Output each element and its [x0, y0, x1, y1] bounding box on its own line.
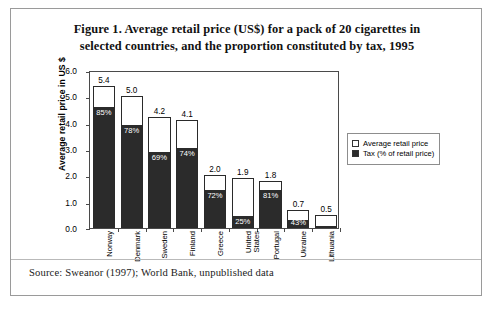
y-axis-tick-label: 2.0: [51, 171, 77, 181]
y-axis-tick-mark: [86, 177, 90, 178]
bar-group: 0.743%: [287, 210, 309, 228]
legend-item-label: Tax (% of retail price): [363, 149, 434, 158]
legend-item: Tax (% of retail price): [352, 149, 434, 158]
source-note: Source: Sweanor (1997); World Bank, unpu…: [29, 267, 274, 278]
bar-group: 1.881%: [259, 181, 281, 228]
x-axis-tick-mark: [229, 228, 230, 232]
x-axis-tick-mark: [146, 228, 147, 232]
figure-title: Figure 1. Average retail price (US$) for…: [37, 21, 457, 55]
x-axis-category-label: Greece: [217, 231, 225, 293]
bar-segment-tax: [177, 148, 197, 227]
chart-legend: Average retail priceTax (% of retail pri…: [347, 133, 440, 165]
bar-value-label: 0.5: [315, 205, 337, 214]
x-axis-category-label: Denmark: [134, 231, 142, 293]
x-axis-category-label: United States: [245, 231, 262, 293]
bar-segment-tax: [94, 107, 114, 227]
bar-group: 1.925%: [232, 178, 254, 228]
bar-tax-percent-label: 74%: [176, 149, 198, 158]
y-axis-tick-mark: [86, 204, 90, 205]
bar-value-label: 1.8: [259, 171, 281, 180]
y-axis-tick-labels: 0.01.02.03.04.05.06.0: [51, 71, 77, 229]
bar-value-label: 4.1: [176, 110, 198, 119]
y-axis-tick-mark: [86, 229, 90, 230]
y-axis-tick-mark: [86, 151, 90, 152]
y-axis-tick-label: 6.0: [51, 66, 77, 76]
chart-plot-region: Average retail price in US $ 0.01.02.03.…: [29, 57, 459, 249]
bars-layer: 5.485%5.078%4.269%4.174%2.072%1.925%1.88…: [90, 72, 338, 228]
x-axis-category-label: Lithuania: [328, 231, 336, 293]
y-axis-tick-label: 3.0: [51, 145, 77, 155]
x-axis-tick-mark: [201, 228, 202, 232]
plot-frame: 5.485%5.078%4.269%4.174%2.072%1.925%1.88…: [89, 71, 339, 229]
x-axis-tick-mark: [284, 228, 285, 232]
y-axis-tick-label: 0.0: [51, 224, 77, 234]
bar-group: 5.485%: [93, 86, 115, 228]
bar-value-label: 0.7: [287, 200, 309, 209]
y-axis-tick-mark: [86, 72, 90, 73]
bar-tax-percent-label: 81%: [259, 191, 281, 200]
bar-group: 4.174%: [176, 120, 198, 228]
x-axis-tick-mark: [173, 228, 174, 232]
bar-value-label: 2.0: [204, 165, 226, 174]
y-axis-tick-label: 4.0: [51, 119, 77, 129]
legend-swatch-tax-icon: [352, 150, 359, 157]
bar-tax-percent-label: 69%: [148, 153, 170, 162]
bar-segment-tax: [122, 125, 142, 227]
y-axis-tick-label: 5.0: [51, 92, 77, 102]
bar-group: 4.269%: [148, 117, 170, 228]
x-axis-category-labels: NorwayDenmarkSwedenFinlandGreeceUnited S…: [89, 233, 339, 295]
bar-tax-percent-label: 25%: [232, 217, 254, 226]
y-axis-tick-label: 1.0: [51, 198, 77, 208]
bar-group: 0.519%: [315, 215, 337, 228]
bar-segment-tax: [149, 152, 169, 227]
bar-tax-percent-label: 85%: [93, 108, 115, 117]
source-divider: [11, 259, 481, 260]
bar-tax-percent-label: 78%: [121, 126, 143, 135]
x-axis-category-label: Finland: [189, 231, 197, 293]
legend-item-label: Average retail price: [363, 139, 428, 148]
x-axis-category-label: Portugal: [273, 231, 281, 293]
bar-value-label: 5.4: [93, 76, 115, 85]
figure-title-line-2: selected countries, and the proportion c…: [37, 38, 457, 55]
x-axis-tick-mark: [340, 228, 341, 232]
y-axis-tick-mark: [86, 98, 90, 99]
x-axis-tick-mark: [118, 228, 119, 232]
y-axis-tick-mark: [86, 125, 90, 126]
x-axis-category-label: Ukraine: [300, 231, 308, 293]
x-axis-category-label: Norway: [106, 231, 114, 293]
bar-value-label: 4.2: [148, 107, 170, 116]
bar-group: 5.078%: [121, 96, 143, 228]
figure-title-line-1: Figure 1. Average retail price (US$) for…: [37, 21, 457, 38]
bar-tax-percent-label: 43%: [287, 218, 309, 227]
x-axis-tick-mark: [312, 228, 313, 232]
legend-item: Average retail price: [352, 139, 434, 148]
bar-value-label: 5.0: [121, 86, 143, 95]
bar-tax-percent-label: 19%: [315, 218, 337, 227]
legend-swatch-price-icon: [352, 140, 359, 147]
bar-value-label: 1.9: [232, 168, 254, 177]
bar-tax-percent-label: 72%: [204, 191, 226, 200]
x-axis-category-label: Sweden: [161, 231, 169, 293]
figure-container: Figure 1. Average retail price (US$) for…: [10, 8, 482, 296]
bar-group: 2.072%: [204, 175, 226, 228]
